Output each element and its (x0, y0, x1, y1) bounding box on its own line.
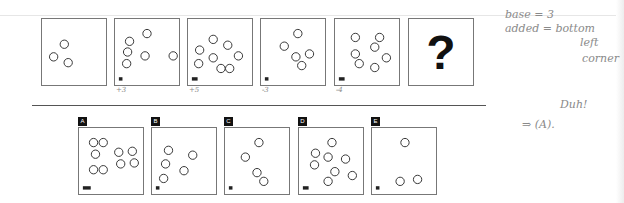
sequence-panel-4 (260, 18, 326, 86)
answer-option-b[interactable] (151, 127, 217, 195)
note-corner: corner (582, 52, 619, 65)
note-exclaim: Duh! (560, 98, 587, 111)
answer-option-e[interactable] (371, 127, 437, 195)
option-label-e: E (371, 117, 380, 126)
unknown-panel: ? (408, 18, 474, 86)
sequence-panel-1 (41, 18, 107, 86)
option-label-a: A (78, 117, 87, 126)
sequence-panel-2 (114, 18, 180, 86)
note-base: base = 3 (505, 8, 554, 21)
note-answer: ⇒ (A). (522, 118, 555, 131)
option-label-d: D (298, 117, 307, 126)
question-mark-icon: ? (409, 19, 473, 85)
answer-option-a[interactable] (78, 127, 144, 195)
answer-option-d[interactable] (298, 127, 364, 195)
option-label-b: B (151, 117, 160, 126)
answer-option-c[interactable] (224, 127, 290, 195)
note-left: left (580, 36, 599, 49)
sequence-annotation: -4 (336, 86, 343, 94)
sequence-annotation: -3 (262, 86, 269, 94)
sequence-annotation: +3 (116, 86, 126, 94)
section-divider (32, 105, 486, 106)
page-edge-shadow (616, 0, 624, 203)
sequence-panel-5 (334, 18, 400, 86)
sequence-annotation: +5 (189, 86, 199, 94)
note-added: added = bottom (505, 22, 595, 35)
sequence-panel-3 (187, 18, 253, 86)
option-label-c: C (224, 117, 233, 126)
